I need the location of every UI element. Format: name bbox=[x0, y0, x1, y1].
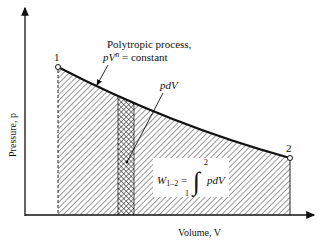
point-1-label: 1 bbox=[54, 51, 60, 63]
state-point-2 bbox=[288, 156, 293, 161]
process-leader-arrow bbox=[97, 65, 108, 85]
integral-upper-limit: 2 bbox=[204, 158, 208, 167]
integrand: pdV bbox=[206, 174, 226, 186]
pdv-leader-dot bbox=[126, 161, 129, 164]
y-axis-label: Pressure, p bbox=[7, 113, 18, 157]
process-equation: pVn = constant bbox=[102, 50, 168, 63]
pv-diagram: 1 2 Polytropic process, pVn = constant p… bbox=[0, 0, 323, 251]
state-point-1 bbox=[56, 65, 61, 70]
point-2-label: 2 bbox=[286, 142, 292, 154]
process-label: Polytropic process, bbox=[107, 38, 192, 50]
integral-lower-limit: 1 bbox=[185, 189, 189, 198]
x-axis-label: Volume, V bbox=[178, 227, 222, 238]
pdv-label: pdV bbox=[159, 79, 179, 91]
